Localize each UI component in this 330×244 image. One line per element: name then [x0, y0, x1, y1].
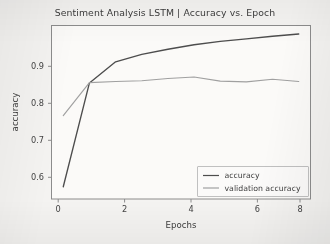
- x-tick-label: 4: [188, 204, 193, 214]
- y-axis-label: accuracy: [10, 93, 20, 132]
- chart-figure: Sentiment Analysis LSTM | Accuracy vs. E…: [0, 0, 330, 244]
- x-tick-label: 0: [56, 204, 61, 214]
- y-axis-ticks: [48, 66, 52, 177]
- y-tick-label: 0.6: [31, 172, 44, 182]
- y-tick-label: 0.9: [31, 61, 44, 71]
- chart-legend: accuracy validation accuracy: [198, 167, 309, 197]
- line-chart-plot: 0.9 0.8 0.7 0.6 0 2 4 6 8 Epochs accurac…: [0, 0, 330, 244]
- legend-label-accuracy: accuracy: [225, 171, 261, 180]
- x-tick-label: 6: [255, 204, 260, 214]
- x-axis-tick-labels: 0 2 4 6 8: [56, 204, 303, 214]
- legend-label-validation-accuracy: validation accuracy: [225, 184, 301, 193]
- y-axis-tick-labels: 0.9 0.8 0.7 0.6: [31, 61, 44, 182]
- x-tick-label: 8: [297, 204, 302, 214]
- y-tick-label: 0.8: [31, 98, 44, 108]
- x-axis-ticks: [58, 199, 300, 203]
- x-axis-label: Epochs: [166, 220, 197, 230]
- y-tick-label: 0.7: [31, 135, 44, 145]
- x-tick-label: 2: [122, 204, 127, 214]
